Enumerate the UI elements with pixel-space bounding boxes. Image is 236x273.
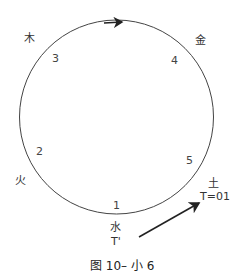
- time-arrow-icon: [139, 203, 199, 237]
- number-4: 4: [171, 55, 178, 67]
- label-earth-time: T=01: [200, 191, 230, 203]
- direction-arrow-icon: [104, 22, 122, 23]
- number-2: 2: [36, 146, 43, 158]
- number-3: 3: [52, 53, 59, 65]
- label-wood: 木: [24, 33, 35, 45]
- label-water: 水: [110, 222, 121, 234]
- number-1: 1: [113, 200, 120, 212]
- label-metal: 金: [195, 35, 206, 47]
- cycle-circle: [20, 20, 214, 214]
- label-earth: 土: [208, 178, 219, 190]
- figure-caption: 图 10– 小 6: [90, 256, 154, 273]
- label-fire: 火: [15, 175, 26, 187]
- label-water-time: T': [111, 236, 121, 248]
- number-5: 5: [186, 155, 193, 167]
